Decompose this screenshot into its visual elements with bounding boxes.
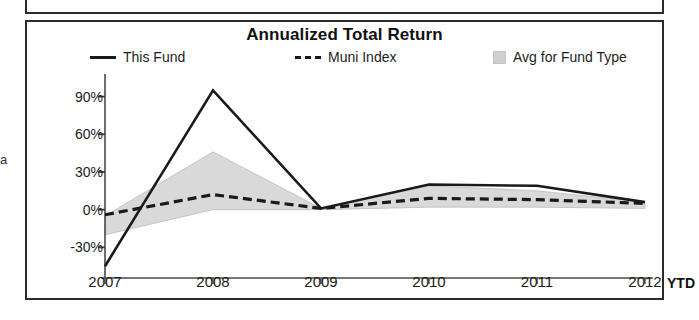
x-axis-tick-label: 2010 — [412, 273, 445, 290]
x-axis-tick-label: 2007 — [88, 273, 121, 290]
panel-above-chart — [25, 0, 664, 14]
plot-area: 90%60%30%0%-30% 200720082009201020112012… — [27, 22, 662, 298]
y-axis-tick-label: 60% — [75, 126, 103, 142]
page-margin-glyph: a — [0, 150, 14, 170]
y-axis-tick-label: 30% — [75, 164, 103, 180]
y-axis-tick-label: 0% — [83, 202, 103, 218]
y-axis-tick-label: 90% — [75, 89, 103, 105]
plot-svg — [27, 22, 662, 298]
x-axis-tick-label: 2009 — [304, 273, 337, 290]
y-axis-tick-labels: 90%60%30%0%-30% — [35, 22, 103, 298]
x-axis-tick-label: 2012 — [628, 273, 661, 290]
y-axis-tick-label: -30% — [70, 239, 103, 255]
x-axis-tick-label: 2011 — [521, 273, 553, 290]
series-band-avg-for-fund-type — [105, 152, 645, 235]
x-axis-tick-labels: 200720082009201020112012YTD — [27, 273, 662, 297]
chart-panel: Annualized Total Return This Fund Muni I… — [25, 20, 664, 300]
x-axis-ytd-label: YTD — [667, 275, 695, 291]
x-axis-tick-label: 2008 — [196, 273, 229, 290]
